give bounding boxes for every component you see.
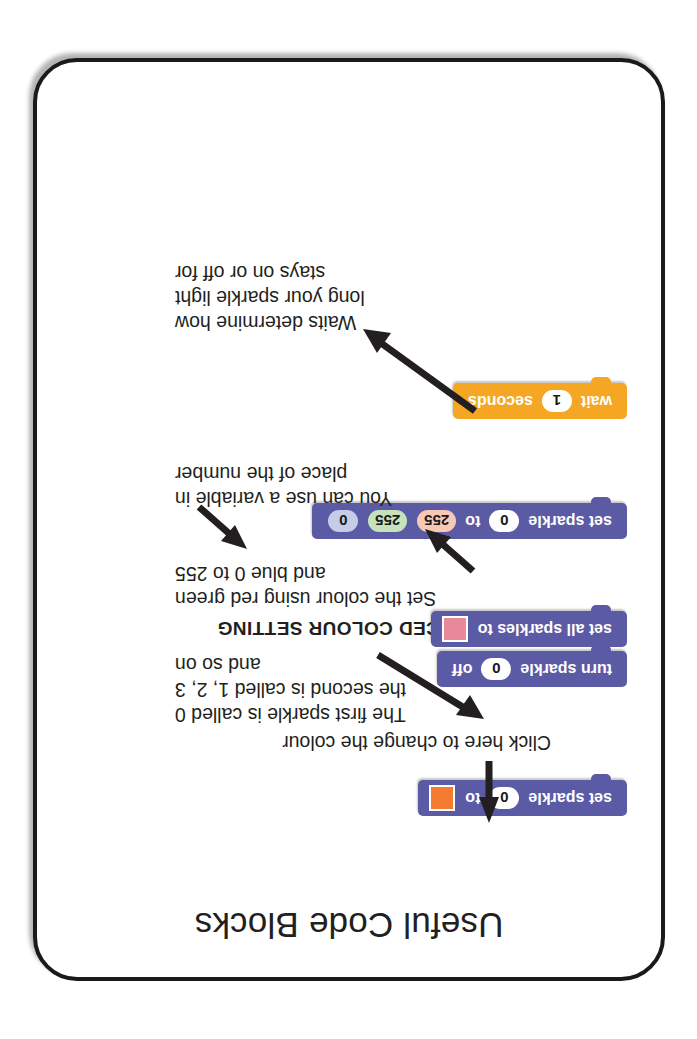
card-rotator: Useful Code Blocks set sparkle 0 to Clic…: [0, 0, 697, 1039]
green-value-field[interactable]: 255: [368, 510, 407, 532]
block-label-set-sparkle-rgb: set sparkle: [528, 512, 612, 530]
note-sparkle-index-line1: The first sparkle is called 0: [175, 702, 661, 727]
note-sparkle-index-line3: and so on: [175, 652, 661, 677]
note-advanced-line1: Set the colour using red green: [175, 586, 661, 611]
block-set-sparkle-colour[interactable]: set sparkle 0 to: [418, 780, 627, 816]
block-label-set-sparkle: set sparkle: [528, 789, 612, 807]
block-label-wait: wait: [581, 392, 612, 410]
block-label-set-all-sparkles: set all sparkles to: [478, 620, 612, 638]
sparkle-index-field-rgb[interactable]: 0: [489, 510, 519, 532]
arrow-to-rgb-red-field: [413, 523, 483, 577]
note-variable-line2: place of the number: [175, 461, 661, 486]
colour-swatch-pink[interactable]: [442, 616, 468, 642]
note-wait-line2: long your sparkle light: [175, 285, 661, 310]
block-set-all-sparkles[interactable]: set all sparkles to: [431, 611, 627, 647]
note-sparkle-index-line2: the second is called 1, 2, 3: [175, 677, 661, 702]
page-title: Useful Code Blocks: [37, 905, 661, 945]
useful-code-blocks-card: Useful Code Blocks set sparkle 0 to Clic…: [33, 58, 665, 981]
note-wait-line1: Waits determine how: [175, 310, 661, 335]
wait-value-field[interactable]: 1: [542, 390, 572, 412]
note-wait-line3: stays on or off for: [175, 260, 661, 285]
arrow-to-colour-swatch: [451, 755, 511, 827]
blue-value-field[interactable]: 0: [328, 510, 358, 532]
note-variable-line1: You can use a variable in: [175, 486, 661, 511]
